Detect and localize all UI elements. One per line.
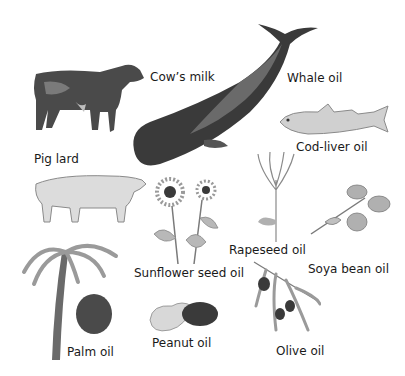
peanut-illustration: [146, 296, 221, 336]
pig-illustration: [30, 170, 150, 226]
label-rapeseed-oil: Rapeseed oil: [229, 243, 306, 257]
label-palm-oil: Palm oil: [67, 345, 114, 359]
cod-illustration: [278, 100, 390, 140]
label-sunflower-seed-oil: Sunflower seed oil: [134, 266, 244, 280]
soya-illustration: [305, 184, 395, 244]
palm-illustration: [20, 232, 120, 362]
label-whale-oil: Whale oil: [287, 71, 342, 85]
sunflower-illustration: [150, 172, 225, 264]
rapeseed-illustration: [250, 150, 302, 242]
olive-illustration: [246, 260, 321, 340]
label-cod-liver-oil: Cod-liver oil: [296, 140, 368, 154]
label-olive-oil: Olive oil: [276, 344, 324, 358]
label-peanut-oil: Peanut oil: [152, 336, 211, 350]
label-pig-lard: Pig lard: [34, 152, 79, 166]
